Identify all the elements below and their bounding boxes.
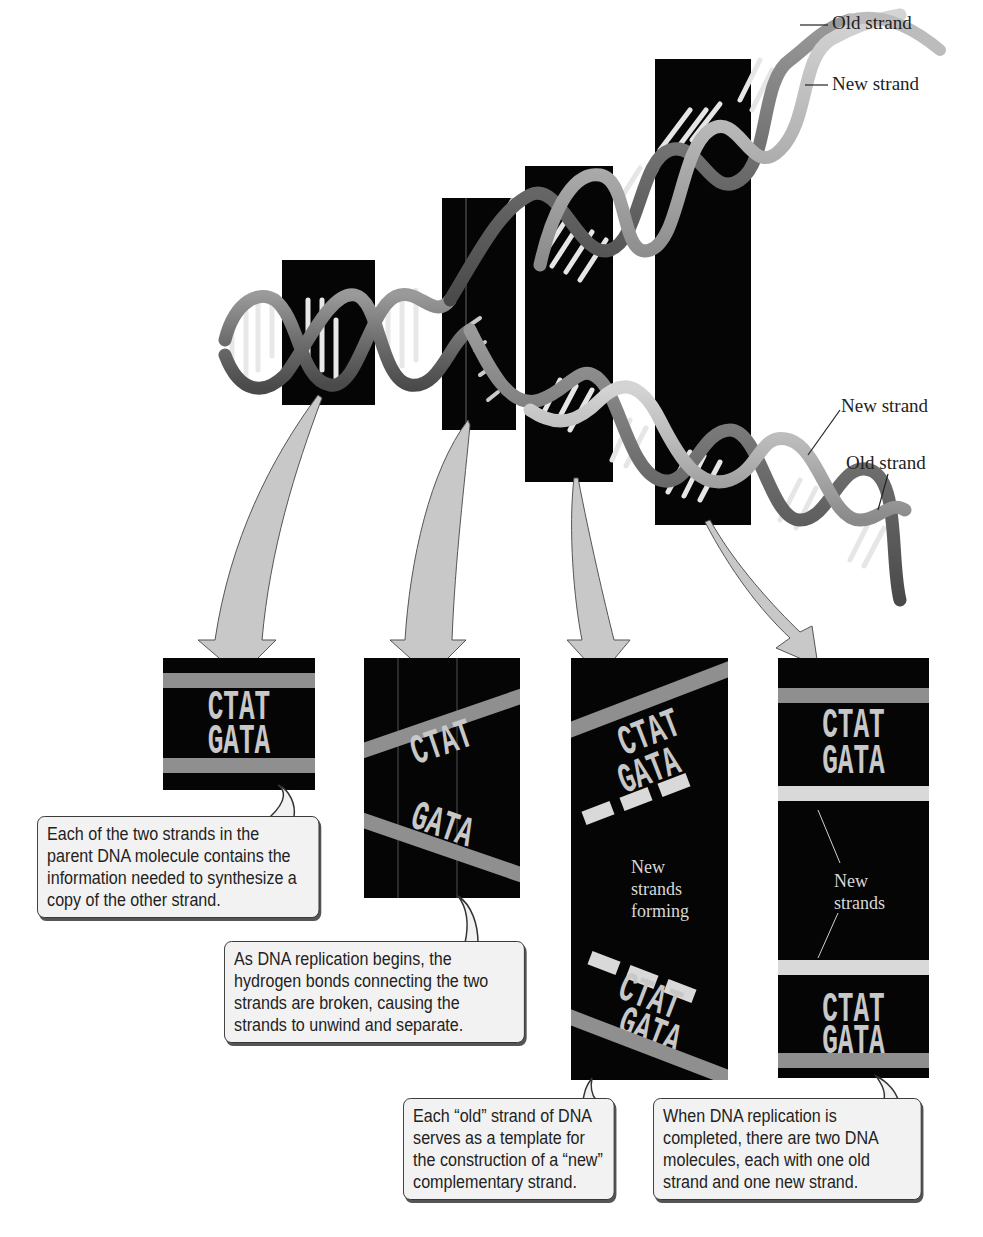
callout-template: Each “old” strand of DNA serves as a tem… [403,1098,615,1200]
callout-parent-dna: Each of the two strands in the parent DN… [37,816,319,918]
callout-pointers [0,0,983,1237]
callout-completed: When DNA replication is completed, there… [653,1098,922,1200]
callout-unwinding: As DNA replication begins, the hydrogen … [224,941,525,1043]
